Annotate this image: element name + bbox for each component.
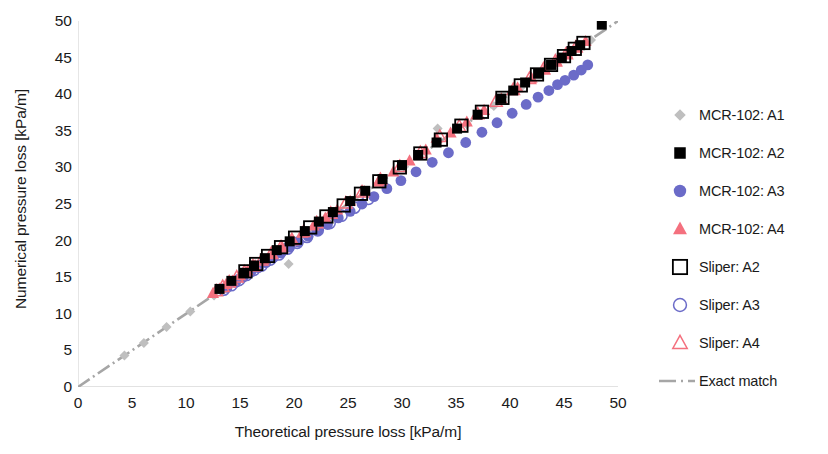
y-tick-label: 15 bbox=[38, 269, 72, 285]
x-tick-label: 50 bbox=[598, 395, 638, 411]
plot-svg bbox=[78, 21, 618, 387]
circle-open-icon bbox=[655, 293, 699, 317]
data-point bbox=[185, 307, 195, 317]
legend-item[interactable]: Exact match bbox=[655, 362, 828, 400]
triangle-filled-icon bbox=[655, 217, 699, 241]
data-point bbox=[284, 259, 294, 269]
legend-item-label: MCR-102: A3 bbox=[699, 183, 784, 199]
legend-item[interactable]: MCR-102: A2 bbox=[655, 134, 828, 172]
data-point bbox=[411, 166, 422, 177]
x-axis-title: Theoretical pressure loss [kPa/m] bbox=[78, 423, 618, 441]
y-tick-label: 30 bbox=[38, 160, 72, 176]
square-filled-icon bbox=[655, 141, 699, 165]
y-tick-label: 25 bbox=[38, 196, 72, 212]
legend-item-label: MCR-102: A1 bbox=[699, 107, 784, 123]
circle-filled-icon bbox=[655, 179, 699, 203]
x-tick-label: 40 bbox=[490, 395, 530, 411]
triangle-filled-glyph bbox=[673, 222, 687, 235]
square-filled-glyph bbox=[674, 147, 686, 159]
legend-item-label: Sliper: A4 bbox=[699, 335, 760, 351]
y-tick-label: 45 bbox=[38, 50, 72, 66]
legend-item-label: MCR-102: A2 bbox=[699, 145, 784, 161]
y-axis-title: Numerical pressure loss [kPa/m] bbox=[6, 4, 36, 394]
data-point bbox=[477, 127, 488, 138]
x-tick-label: 30 bbox=[382, 395, 422, 411]
triangle-open-icon bbox=[655, 331, 699, 355]
data-point bbox=[533, 92, 544, 103]
legend-item-label: Exact match bbox=[699, 373, 777, 389]
circle-open-glyph bbox=[674, 299, 687, 312]
circle-filled-glyph bbox=[674, 185, 686, 197]
data-point bbox=[546, 60, 556, 70]
plot-area bbox=[78, 21, 618, 387]
square-open-glyph bbox=[673, 260, 687, 274]
data-point bbox=[597, 21, 607, 30]
diamond-filled-glyph bbox=[674, 109, 686, 121]
data-point bbox=[214, 284, 224, 294]
y-tick-label: 5 bbox=[38, 343, 72, 359]
y-tick-label: 0 bbox=[38, 379, 72, 395]
legend-item[interactable]: Sliper: A2 bbox=[655, 248, 828, 286]
x-tick-label: 0 bbox=[58, 395, 98, 411]
y-tick-label: 40 bbox=[38, 86, 72, 102]
data-point bbox=[533, 69, 543, 79]
x-tick-label: 25 bbox=[328, 395, 368, 411]
square-open-icon bbox=[655, 255, 699, 279]
legend-item-label: Sliper: A3 bbox=[699, 297, 760, 313]
legend: MCR-102: A1MCR-102: A2MCR-102: A3MCR-102… bbox=[655, 96, 828, 400]
data-point bbox=[582, 60, 593, 71]
diamond-filled-icon bbox=[655, 103, 699, 127]
data-point bbox=[239, 268, 249, 278]
legend-item[interactable]: MCR-102: A1 bbox=[655, 96, 828, 134]
x-tick-label: 35 bbox=[436, 395, 476, 411]
x-tick-label: 20 bbox=[274, 395, 314, 411]
legend-item[interactable]: MCR-102: A3 bbox=[655, 172, 828, 210]
legend-item[interactable]: MCR-102: A4 bbox=[655, 210, 828, 248]
legend-item[interactable]: Sliper: A4 bbox=[655, 324, 828, 362]
x-tick-label: 15 bbox=[220, 395, 260, 411]
data-point bbox=[496, 94, 506, 104]
data-point bbox=[492, 117, 503, 128]
line-dashdot-icon bbox=[655, 369, 699, 393]
y-tick-label: 20 bbox=[38, 233, 72, 249]
triangle-open-glyph bbox=[673, 335, 687, 348]
y-tick-label: 10 bbox=[38, 306, 72, 322]
data-point bbox=[460, 137, 471, 148]
x-tick-label: 10 bbox=[166, 395, 206, 411]
x-tick-label: 5 bbox=[112, 395, 152, 411]
data-point bbox=[226, 276, 236, 286]
legend-item-label: Sliper: A2 bbox=[699, 259, 760, 275]
data-point bbox=[507, 108, 518, 119]
y-tick-label: 35 bbox=[38, 123, 72, 139]
legend-item-label: MCR-102: A4 bbox=[699, 221, 784, 237]
data-point bbox=[396, 175, 407, 186]
data-point bbox=[508, 86, 518, 96]
legend-item[interactable]: Sliper: A3 bbox=[655, 286, 828, 324]
scatter-chart: Numerical pressure loss [kPa/m] 05101520… bbox=[0, 0, 828, 454]
data-point bbox=[427, 157, 438, 168]
y-tick-label: 50 bbox=[38, 13, 72, 29]
data-point bbox=[521, 99, 532, 110]
data-point bbox=[443, 147, 454, 158]
x-tick-label: 45 bbox=[544, 395, 584, 411]
